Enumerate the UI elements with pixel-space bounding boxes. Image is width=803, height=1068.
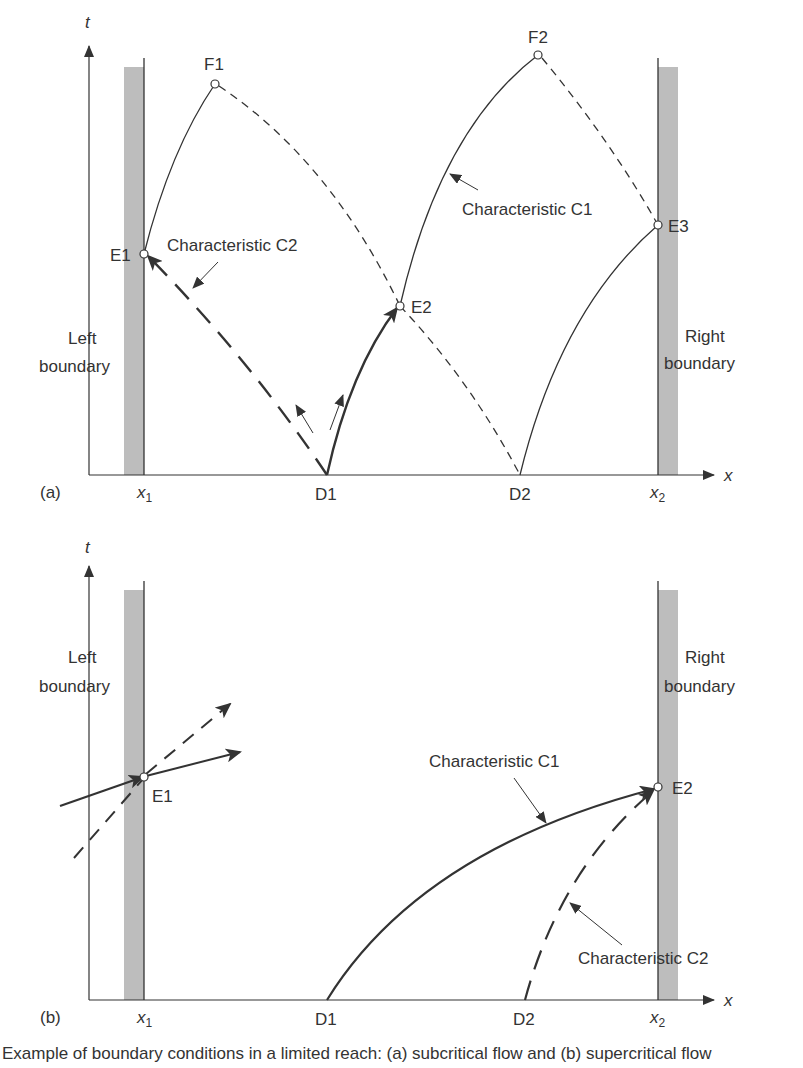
characteristic-c2-dashed-b (525, 791, 653, 1000)
point-f1 (211, 80, 219, 88)
panel-b: t x E1 E2 Characteristic C1 Characterist… (39, 538, 735, 1030)
right-boundary-label-2: boundary (664, 354, 735, 373)
characteristic-c1-bold (327, 308, 397, 475)
right-boundary-label-1-b: Right (685, 648, 725, 667)
right-boundary-label-1: Right (685, 327, 725, 346)
direction-arrow-c2 (296, 405, 313, 433)
label-e2: E2 (411, 298, 432, 317)
annotation-c2-b: Characteristic C2 (578, 949, 708, 968)
left-boundary-label-1-b: Left (68, 648, 97, 667)
outgoing-c2-dashed-b (146, 704, 230, 774)
label-e1: E1 (110, 246, 131, 265)
label-f2: F2 (528, 28, 548, 47)
panel-a-tag: (a) (40, 483, 61, 502)
x-axis-label: x (723, 466, 733, 485)
annotation-arrow-c1-b (514, 778, 546, 823)
outgoing-c1-b (146, 752, 240, 776)
tick-x2-b: x2 (649, 1008, 666, 1030)
annotation-c1: Characteristic C1 (462, 200, 592, 219)
point-e1 (140, 250, 148, 258)
characteristic-c1-b (327, 789, 654, 1000)
point-e2-b (654, 783, 662, 791)
tick-d2: D2 (509, 485, 531, 504)
point-e1-b (140, 773, 148, 781)
left-boundary-band (124, 67, 144, 475)
left-boundary-label-2: boundary (39, 357, 110, 376)
tick-d1: D1 (315, 485, 337, 504)
tick-d1-b: D1 (315, 1010, 337, 1029)
point-e2 (396, 302, 404, 310)
t-axis-label-b: t (85, 538, 91, 557)
annotation-arrow-c2 (193, 262, 218, 288)
right-boundary-band (658, 67, 678, 475)
right-boundary-label-2-b: boundary (664, 677, 735, 696)
x-axis-label-b: x (723, 991, 733, 1010)
panel-b-tag: (b) (40, 1008, 61, 1027)
characteristics-figure: t x F1 F2 E1 E2 E3 Characteristic C2 Cha… (0, 0, 803, 1068)
point-e3 (654, 221, 662, 229)
point-f2 (534, 51, 542, 59)
annotation-arrow-c2-b (570, 903, 622, 945)
label-e1-b: E1 (152, 787, 173, 806)
curve-d2-e3 (520, 225, 658, 475)
label-f1: F1 (204, 55, 224, 74)
tick-x2: x2 (649, 483, 666, 505)
label-e2-b: E2 (672, 779, 693, 798)
left-boundary-label-2-b: boundary (39, 677, 110, 696)
left-boundary-band-b (124, 590, 144, 1000)
label-e3: E3 (668, 217, 689, 236)
annotation-c1-b: Characteristic C1 (429, 752, 559, 771)
panel-a: t x F1 F2 E1 E2 E3 Characteristic C2 Cha… (39, 13, 735, 505)
annotation-arrow-c1 (450, 174, 478, 190)
t-axis-label: t (85, 13, 91, 32)
curve-e2-f2 (400, 55, 538, 306)
annotation-c2: Characteristic C2 (167, 236, 297, 255)
tick-x1: x1 (136, 483, 153, 505)
curve-e1-f1 (144, 84, 215, 254)
curve-f1-e2-dashed (219, 86, 400, 306)
left-boundary-label-1: Left (68, 329, 97, 348)
curve-e2-d2-dashed (400, 306, 520, 475)
tick-d2-b: D2 (513, 1010, 535, 1029)
characteristic-c2-dashed-bold (148, 256, 327, 475)
figure-caption: Example of boundary conditions in a limi… (0, 1044, 803, 1064)
tick-x1-b: x1 (136, 1008, 153, 1030)
